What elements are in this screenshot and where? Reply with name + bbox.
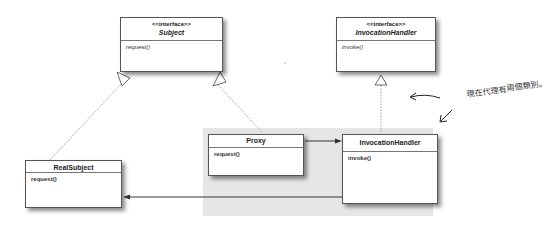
realsubject-class-box[interactable]: RealSubject request()	[25, 160, 122, 208]
stereotype-label: <<interface>>	[121, 18, 222, 28]
proxy-class-name: Proxy	[209, 135, 303, 147]
invoke-method: invoke()	[337, 41, 435, 50]
realsubject-request-method: request()	[26, 173, 121, 182]
stereotype-label: <<interface>>	[337, 18, 435, 28]
realsubject-realization-line	[50, 82, 123, 160]
proxy-request-method: request()	[209, 148, 303, 157]
realsubject-class-name: RealSubject	[26, 161, 121, 172]
proxy-realization-line	[217, 84, 262, 132]
annotation-pointer-arrow	[441, 110, 452, 121]
association-arrowhead-icon	[123, 195, 130, 200]
subject-interface-header: <<interface>> Subject	[121, 18, 222, 41]
proxy-class-box[interactable]: Proxy request()	[208, 134, 304, 176]
invocationhandler-interface-name: InvocationHandler	[337, 28, 435, 40]
proxy-header: Proxy	[209, 135, 303, 148]
subject-request-method: request()	[121, 41, 222, 50]
invocationhandler-interface-box[interactable]: <<interface>> InvocationHandler invoke()	[336, 17, 436, 72]
invocationhandler-interface-header: <<interface>> InvocationHandler	[337, 18, 435, 41]
subject-interface-box[interactable]: <<interface>> Subject request()	[120, 17, 223, 72]
invocationhandler-class-box[interactable]: InvocationHandler invoke()	[342, 134, 438, 204]
realization-arrowhead-icon	[213, 72, 226, 86]
association-arrowhead-icon	[335, 139, 342, 144]
subject-interface-name: Subject	[121, 28, 222, 40]
invocationhandler-header: InvocationHandler	[343, 135, 437, 152]
realsubject-header: RealSubject	[26, 161, 121, 173]
annotation-curve-arrow	[411, 95, 440, 98]
invocationhandler-class-name: InvocationHandler	[343, 135, 437, 151]
realization-arrowhead-icon	[375, 75, 387, 85]
invocationhandler-invoke-method: invoke()	[343, 152, 437, 161]
realization-arrowhead-icon	[117, 72, 130, 86]
